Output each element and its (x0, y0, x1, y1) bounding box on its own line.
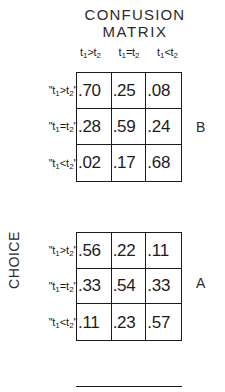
y-axis-label-choice: CHOICE (6, 220, 22, 300)
table-row: .11 .23 .57 (77, 304, 181, 340)
cell-b-r1-c1: .59 (112, 109, 147, 144)
row-label-group-panel-b: "t1>t2" "t1=t2" "t1<t2" (20, 72, 77, 182)
cell-a-r2-c1: .23 (112, 304, 147, 340)
row-label-b-t1-equal-t2: "t1=t2" (20, 109, 77, 146)
column-header-t1-greater-t2: t1>t2 (73, 46, 108, 59)
cell-b-r2-c1: .17 (112, 145, 147, 181)
cell-b-r2-c0: .02 (77, 145, 112, 181)
panel-label-a: A (196, 276, 205, 290)
page-title-line-2: MATRIX (55, 23, 215, 40)
cell-a-r0-c0: .56 (77, 233, 112, 268)
cell-a-r2-c0: .11 (77, 304, 112, 340)
table-row: .70 .25 .08 (77, 73, 181, 109)
confusion-matrix-panel-b: .70 .25 .08 .28 .59 .24 .02 .17 .68 (76, 72, 182, 182)
partial-matrix-top-border (76, 386, 182, 387)
row-label-group-panel-a: "t1>t2" "t1=t2" "t1<t2" (20, 232, 77, 341)
cell-b-r0-c2: .08 (146, 73, 181, 108)
confusion-matrix-panel-a: .56 .22 .11 .33 .54 .33 .11 .23 .57 (76, 232, 182, 341)
cell-b-r1-c2: .24 (146, 109, 181, 144)
table-row: .33 .54 .33 (77, 269, 181, 305)
row-label-b-t1-less-t2: "t1<t2" (20, 145, 77, 182)
column-header-t1-equal-t2: t1=t2 (112, 46, 147, 59)
cell-a-r1-c1: .54 (112, 269, 147, 304)
cell-b-r1-c0: .28 (77, 109, 112, 144)
row-label-a-t1-equal-t2: "t1=t2" (20, 268, 77, 304)
cell-a-r1-c2: .33 (146, 269, 181, 304)
cell-b-r0-c0: .70 (77, 73, 112, 108)
cell-a-r2-c2: .57 (146, 304, 181, 340)
cell-a-r0-c1: .22 (112, 233, 147, 268)
cell-a-r1-c0: .33 (77, 269, 112, 304)
page-title-line-1: CONFUSION (55, 6, 215, 23)
panel-label-b: B (196, 120, 205, 134)
table-row: .56 .22 .11 (77, 233, 181, 269)
row-label-b-t1-greater-t2: "t1>t2" (20, 72, 77, 109)
column-header-t1-less-t2: t1<t2 (150, 46, 185, 59)
row-label-a-t1-greater-t2: "t1>t2" (20, 232, 77, 268)
page-title: CONFUSION MATRIX (55, 6, 215, 40)
cell-a-r0-c2: .11 (146, 233, 181, 268)
cell-b-r0-c1: .25 (112, 73, 147, 108)
table-row: .02 .17 .68 (77, 145, 181, 181)
table-row: .28 .59 .24 (77, 109, 181, 145)
column-header-row: t1>t2 t1=t2 t1<t2 (73, 46, 185, 59)
row-label-a-t1-less-t2: "t1<t2" (20, 305, 77, 341)
cell-b-r2-c2: .68 (146, 145, 181, 181)
